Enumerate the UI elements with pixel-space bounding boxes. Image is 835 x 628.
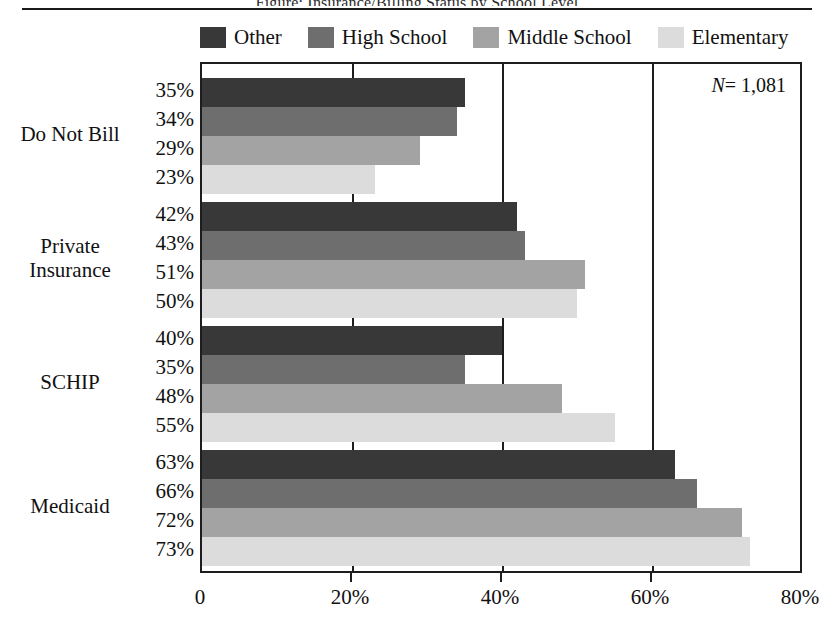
legend-item-label: Elementary (692, 27, 789, 48)
category-label-private-insurance-line2: Insurance (0, 258, 140, 282)
bar (202, 537, 750, 566)
category-label-medicaid: Medicaid (0, 494, 140, 518)
legend-swatch-other (200, 27, 226, 48)
figure-root: Figure: Insurance/Billing Status by Scho… (0, 0, 835, 628)
bar-value-label: 29% (140, 134, 194, 163)
bar-value-label: 35% (140, 353, 194, 382)
bar (202, 202, 517, 231)
x-axis-tick (350, 573, 352, 582)
x-axis-tick-label: 80% (781, 585, 820, 609)
bar-value-label: 72% (140, 506, 194, 535)
bar-value-label: 51% (140, 258, 194, 287)
plot-area: N= 1,081 (200, 62, 802, 573)
bar (202, 479, 697, 508)
bar-value-label: 73% (140, 535, 194, 564)
bar (202, 326, 502, 355)
bar (202, 413, 615, 442)
category-label-private-insurance-line1: Private (0, 234, 140, 258)
bar-value-label: 40% (140, 324, 194, 353)
bar (202, 107, 457, 136)
legend-item[interactable]: Other (200, 27, 282, 48)
sample-size-equals: = (725, 74, 736, 96)
sample-size-value: 1,081 (741, 74, 786, 96)
legend-item[interactable]: Elementary (658, 27, 789, 48)
legend-item-label: High School (342, 27, 448, 48)
bar (202, 355, 465, 384)
bar-value-label: 35% (140, 76, 194, 105)
bar (202, 136, 420, 165)
bar-value-label: 66% (140, 477, 194, 506)
x-axis-tick-label: 60% (631, 585, 670, 609)
chart-legend: OtherHigh SchoolMiddle SchoolElementary (200, 24, 835, 50)
category-label-schip: SCHIP (0, 370, 140, 394)
category-label-do-not-bill: Do Not Bill (0, 122, 140, 146)
bar (202, 231, 525, 260)
legend-item-label: Middle School (507, 27, 631, 48)
x-axis-tick-label: 40% (481, 585, 520, 609)
bar-value-label: 48% (140, 382, 194, 411)
cut-off-title: Figure: Insurance/Billing Status by Scho… (22, 0, 812, 6)
top-rule (22, 8, 812, 10)
x-axis-tick (650, 573, 652, 582)
legend-item[interactable]: High School (308, 27, 448, 48)
bar (202, 450, 675, 479)
bar (202, 165, 375, 194)
bar (202, 289, 577, 318)
bar-value-label: 23% (140, 163, 194, 192)
bar-value-label: 34% (140, 105, 194, 134)
bar-value-label: 43% (140, 229, 194, 258)
legend-swatch-middle-school (473, 27, 499, 48)
x-axis-tick (500, 573, 502, 582)
bar-value-label: 42% (140, 200, 194, 229)
bar (202, 508, 742, 537)
x-axis-tick-label: 0 (195, 585, 206, 609)
legend-swatch-elementary (658, 27, 684, 48)
bar-value-label: 63% (140, 448, 194, 477)
legend-item[interactable]: Middle School (473, 27, 631, 48)
x-axis-tick-label: 20% (331, 585, 370, 609)
bar-value-label: 55% (140, 411, 194, 440)
sample-size-symbol: N (711, 74, 724, 96)
bar (202, 78, 465, 107)
bar (202, 260, 585, 289)
legend-item-label: Other (234, 27, 282, 48)
sample-size-annotation: N= 1,081 (711, 74, 786, 97)
legend-swatch-high-school (308, 27, 334, 48)
bar (202, 384, 562, 413)
bar-value-label: 50% (140, 287, 194, 316)
